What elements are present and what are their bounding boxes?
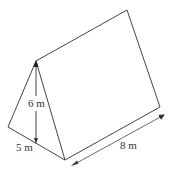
ridge-edge — [36, 10, 127, 61]
length-arrow-start-icon — [71, 161, 79, 167]
base-label: 5 m — [16, 141, 33, 153]
length-dimension-arrow — [73, 115, 164, 165]
height-arrow-top-icon — [34, 60, 39, 67]
height-label: 6 m — [28, 97, 45, 109]
prism-diagram: 6 m 5 m 8 m — [0, 0, 173, 177]
height-arrow-bottom-icon — [34, 138, 38, 144]
back-right-edge — [127, 10, 160, 107]
base-length-edge — [65, 107, 160, 160]
length-label: 8 m — [120, 139, 137, 151]
